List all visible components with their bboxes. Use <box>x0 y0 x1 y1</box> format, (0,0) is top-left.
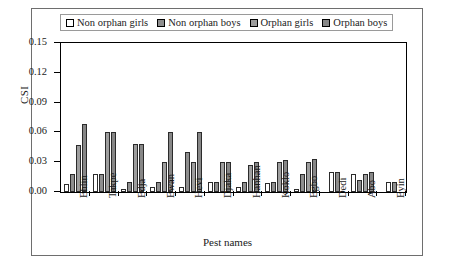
bar <box>121 189 126 192</box>
y-axis-tick-mark <box>54 191 60 192</box>
bar <box>99 174 104 192</box>
bar <box>156 182 161 192</box>
bar <box>294 189 299 192</box>
figure: Non orphan girlsNon orphan boysOrphan gi… <box>0 0 455 265</box>
x-axis-tick-label: Ehlin <box>78 175 89 198</box>
bar <box>236 187 241 192</box>
bars-container <box>61 43 406 192</box>
x-axis-tick-label: Ewan <box>165 174 176 198</box>
bar <box>64 184 69 192</box>
bar-group <box>320 43 349 192</box>
y-axis-tick-mark <box>54 42 60 43</box>
x-axis-tick-label: Djaka <box>222 173 233 198</box>
x-axis-tick-label: Egbo <box>308 176 319 198</box>
y-axis-tick-label: 0.06 <box>0 126 47 136</box>
y-axis-tick-label: 0.03 <box>0 156 47 166</box>
bar-group <box>349 43 378 192</box>
bar <box>208 182 213 192</box>
x-axis-tick-label: Hevi <box>193 178 204 198</box>
bar <box>127 182 132 192</box>
bar-group <box>119 43 148 192</box>
bar <box>185 152 190 192</box>
bar <box>300 174 305 192</box>
y-axis-tick-mark <box>54 161 60 162</box>
y-axis-tick-mark <box>54 131 60 132</box>
bar <box>265 183 270 192</box>
bar <box>214 182 219 192</box>
bar <box>93 174 98 192</box>
legend-label: Non orphan boys <box>168 17 240 28</box>
legend-item: Orphan boys <box>322 17 387 28</box>
x-axis-tick-label: Eyin <box>395 178 406 198</box>
bar <box>271 182 276 192</box>
x-axis-tick-label: Abo <box>366 180 377 198</box>
y-axis-tick-label: 0.15 <box>0 37 47 47</box>
x-axis-title: Pest names <box>0 236 455 248</box>
bar <box>386 182 391 192</box>
bar-group <box>377 43 406 192</box>
bar <box>70 174 75 192</box>
legend-label: Orphan girls <box>261 17 314 28</box>
x-axis-tick-label: Edja <box>136 179 147 198</box>
bar-group <box>90 43 119 192</box>
legend-item: Orphan girls <box>250 17 314 28</box>
y-axis-tick-label: 0.12 <box>0 67 47 77</box>
bar-group <box>291 43 320 192</box>
bar-group <box>176 43 205 192</box>
y-axis-tick-label: 0.00 <box>0 186 47 196</box>
y-axis-tick-mark <box>54 102 60 103</box>
legend-item: Non orphan boys <box>157 17 240 28</box>
y-axis-tick-label: 0.09 <box>0 97 47 107</box>
x-axis-tick-label: Hanhan <box>251 165 262 198</box>
legend-item: Non orphan girls <box>66 17 148 28</box>
bar-group <box>61 43 90 192</box>
x-axis-tick-label: Takpe <box>107 172 118 198</box>
chart-legend: Non orphan girlsNon orphan boysOrphan gi… <box>60 14 393 31</box>
legend-swatch-2 <box>157 19 165 27</box>
y-axis-tick-mark <box>54 72 60 73</box>
legend-label: Non orphan girls <box>77 17 148 28</box>
bar <box>242 182 247 192</box>
legend-swatch-3 <box>250 19 258 27</box>
bar <box>150 187 155 192</box>
legend-label: Orphan boys <box>333 17 387 28</box>
bar <box>179 187 184 192</box>
bar-group <box>147 43 176 192</box>
plot-area <box>60 42 407 193</box>
legend-swatch-4 <box>322 19 330 27</box>
bar <box>357 180 362 192</box>
x-axis-tick-label: Dedi <box>337 178 348 198</box>
legend-swatch-1 <box>66 19 74 27</box>
bar <box>329 172 334 192</box>
bar <box>351 174 356 192</box>
x-axis-tick-label: Koklo <box>280 172 291 198</box>
bar-group <box>205 43 234 192</box>
bar-group <box>262 43 291 192</box>
